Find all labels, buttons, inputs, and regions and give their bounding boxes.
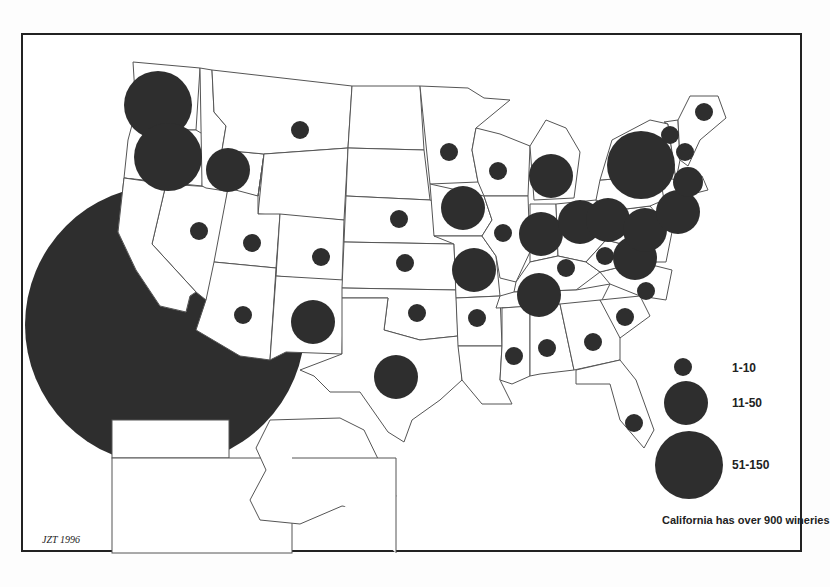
caption: California has over 900 wineries bbox=[662, 514, 830, 526]
bubble-missouri bbox=[452, 248, 496, 292]
bubble-tennessee bbox=[517, 273, 561, 317]
bubble-iowa bbox=[441, 186, 485, 230]
bubble-west-virginia bbox=[596, 247, 614, 265]
bubble-kentucky bbox=[557, 259, 575, 277]
legend-swatch bbox=[655, 431, 723, 499]
legend-swatch bbox=[664, 381, 708, 425]
bubble-wisconsin bbox=[489, 162, 507, 180]
bubble-colorado bbox=[312, 248, 330, 266]
bubble-idaho bbox=[206, 148, 250, 192]
bubble-new-jersey bbox=[656, 190, 700, 234]
bubble-michigan bbox=[529, 154, 573, 198]
bubble-connecticut-ri-ma bbox=[673, 167, 703, 197]
bubble-illinois bbox=[494, 224, 512, 242]
legend-swatch bbox=[674, 358, 692, 376]
bubble-kansas bbox=[396, 254, 414, 272]
bubble-oklahoma bbox=[408, 304, 426, 322]
bubble-new-mexico bbox=[291, 300, 335, 344]
winery-map: 1-1011-5051-150 California has over 900 … bbox=[0, 0, 830, 587]
bubble-mississippi bbox=[505, 347, 523, 365]
bubble-alabama bbox=[538, 339, 556, 357]
legend-label: 11-50 bbox=[732, 396, 762, 410]
bubble-pennsylvania bbox=[586, 198, 630, 242]
bubble-georgia bbox=[584, 333, 602, 351]
bubble-nevada bbox=[190, 222, 208, 240]
bubble-south-carolina bbox=[616, 308, 634, 326]
bubble-texas bbox=[374, 355, 418, 399]
bubble-north-carolina bbox=[637, 282, 655, 300]
bubble-florida bbox=[625, 414, 643, 432]
bubble-new-hampshire bbox=[676, 143, 694, 161]
bubble-arkansas bbox=[468, 309, 486, 327]
bubble-indiana bbox=[519, 212, 563, 256]
bubble-oregon bbox=[134, 123, 202, 191]
bubble-utah bbox=[243, 234, 261, 252]
bubble-minnesota bbox=[440, 143, 458, 161]
credit: JZT 1996 bbox=[42, 534, 80, 545]
legend-label: 51-150 bbox=[732, 458, 770, 472]
bubble-vermont bbox=[661, 126, 679, 144]
bubble-arizona bbox=[234, 306, 252, 324]
bubble-montana bbox=[291, 121, 309, 139]
legend-label: 1-10 bbox=[732, 361, 756, 375]
bubble-nebraska bbox=[390, 210, 408, 228]
bubble-maine bbox=[695, 103, 713, 121]
legend: 1-1011-5051-150 bbox=[655, 358, 770, 499]
